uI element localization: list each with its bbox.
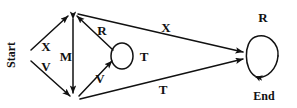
self-loop-mid [111, 43, 133, 69]
edge-label-m: M [60, 50, 72, 63]
self-loop-end-lower [256, 56, 278, 77]
edge-label-t-right: T [159, 83, 168, 96]
node-label-end: End [253, 90, 274, 102]
edge-label-x-left: X [41, 40, 50, 53]
edge-label-v-mid: V [95, 72, 104, 85]
edge-label-v-left: V [41, 60, 50, 73]
edge-label-x-right: X [161, 21, 170, 34]
self-loop-label-r-end: R [258, 11, 267, 24]
node-label-start: Start [5, 42, 17, 68]
diagram-canvas: Start X V M R V T X T R End [0, 0, 297, 108]
edge-label-r-mid: R [97, 24, 106, 37]
self-loop-label-t-mid: T [140, 50, 149, 63]
